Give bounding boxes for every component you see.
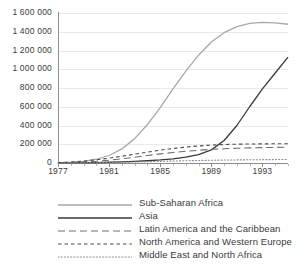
series-line	[58, 57, 288, 163]
legend-line-swatch	[58, 223, 132, 235]
x-tick-label: 1989	[191, 166, 231, 176]
x-tick-minor	[147, 164, 148, 166]
x-tick-label: 1977	[38, 166, 78, 176]
x-tick-major	[109, 164, 110, 167]
x-tick-minor	[96, 164, 97, 166]
x-tick-major	[262, 164, 263, 167]
y-tick-label: 1 200 000	[0, 46, 52, 55]
legend-line-swatch	[58, 210, 132, 222]
x-tick-minor	[186, 164, 187, 166]
y-tick-label: 1 600 000	[0, 8, 52, 17]
x-tick-major	[58, 164, 59, 167]
y-tick-label: 200 000	[0, 139, 52, 148]
x-tick-minor	[199, 164, 200, 166]
x-tick-label: 1993	[242, 166, 282, 176]
x-tick-minor	[288, 164, 289, 166]
legend-label: Sub-Saharan Africa	[139, 197, 223, 208]
legend-label: Asia	[139, 210, 158, 221]
x-tick-major	[160, 164, 161, 167]
x-tick-minor	[250, 164, 251, 166]
x-tick-minor	[173, 164, 174, 166]
chart-container: 0200 000400 000600 000800 0001 000 0001 …	[0, 0, 304, 275]
legend-label: Middle East and North Africa	[139, 249, 262, 260]
legend-line-swatch	[58, 197, 132, 209]
series-line	[58, 22, 288, 162]
legend-line-swatch	[58, 236, 132, 248]
legend-line-swatch	[58, 249, 132, 261]
series-lines	[58, 13, 288, 163]
legend-item[interactable]: Latin America and the Caribbean	[58, 222, 304, 235]
y-tick-label: 600 000	[0, 102, 52, 111]
y-tick-label: 1 000 000	[0, 64, 52, 73]
x-tick-minor	[224, 164, 225, 166]
x-tick-minor	[135, 164, 136, 166]
y-tick-label: 800 000	[0, 83, 52, 92]
x-tick-label: 1985	[140, 166, 180, 176]
x-tick-major	[211, 164, 212, 167]
legend-item[interactable]: Middle East and North Africa	[58, 248, 304, 261]
y-tick-label: 1 400 000	[0, 27, 52, 36]
x-tick-minor	[122, 164, 123, 166]
chart-legend: Sub-Saharan AfricaAsiaLatin America and …	[58, 196, 304, 261]
legend-item[interactable]: North America and Western Europe	[58, 235, 304, 248]
x-tick-minor	[84, 164, 85, 166]
y-tick-label: 400 000	[0, 121, 52, 130]
legend-label: Latin America and the Caribbean	[139, 223, 280, 234]
legend-item[interactable]: Asia	[58, 209, 304, 222]
legend-item[interactable]: Sub-Saharan Africa	[58, 196, 304, 209]
x-tick-minor	[71, 164, 72, 166]
x-tick-minor	[237, 164, 238, 166]
x-tick-minor	[275, 164, 276, 166]
legend-label: North America and Western Europe	[139, 236, 292, 247]
x-tick-label: 1981	[89, 166, 129, 176]
